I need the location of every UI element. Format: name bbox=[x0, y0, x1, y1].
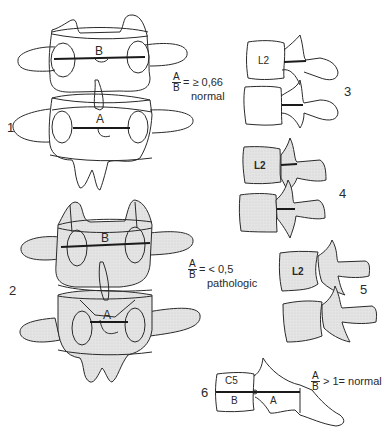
ratio-1-denominator: B bbox=[173, 83, 180, 93]
panel-2-label-a: A bbox=[103, 308, 111, 322]
panel-1-label-b: B bbox=[95, 44, 103, 58]
ratio-2-denominator: B bbox=[189, 270, 196, 280]
ratio-1-relation: = ≥ 0,66 bbox=[183, 76, 223, 88]
ratio-2-fraction: A B bbox=[188, 259, 197, 280]
panel-3-drawing bbox=[244, 35, 338, 128]
panel-6-vertebra-label: C5 bbox=[225, 375, 238, 386]
panel-6-number: 6 bbox=[201, 385, 208, 400]
panel-5-number: 5 bbox=[360, 282, 367, 297]
panel-1-number: 1 bbox=[7, 120, 14, 135]
ratio-3-relation: > 1= normal bbox=[323, 375, 382, 387]
ratio-2-relation: = < 0,5 bbox=[199, 263, 233, 275]
panel-3-vertebra-label: L2 bbox=[258, 55, 269, 66]
panel-6-label-a: A bbox=[270, 395, 277, 406]
panel-1-label-a: A bbox=[96, 112, 104, 126]
panel-5-vertebra-label: L2 bbox=[292, 266, 304, 277]
panel-4-vertebra-label: L2 bbox=[254, 160, 266, 171]
ratio-1-note: normal bbox=[191, 90, 225, 102]
ratio-3-fraction: A B bbox=[311, 371, 320, 392]
panel-1-drawing bbox=[13, 15, 193, 190]
panel-6-label-b: B bbox=[231, 395, 238, 406]
ratio-3-denominator: B bbox=[312, 382, 319, 392]
ratio-1-fraction: A B bbox=[172, 72, 181, 93]
panel-4-drawing bbox=[239, 138, 326, 238]
panel-3-number: 3 bbox=[344, 84, 351, 99]
panel-2-label-b: B bbox=[101, 231, 109, 245]
panel-2-number: 2 bbox=[9, 283, 16, 298]
panel-4-number: 4 bbox=[339, 186, 346, 201]
ratio-2-note: pathologic bbox=[207, 277, 257, 289]
